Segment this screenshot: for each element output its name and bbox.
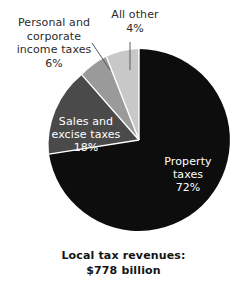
pie-chart-figure: Property taxes 72% Sales and excise taxe… [0, 0, 247, 283]
caption-line-1: Local tax revenues: [0, 249, 247, 264]
slice-label-personal-and-corporate-income-taxes: Personal and corporate income taxes 6% [2, 16, 106, 70]
allother-label-line1: All other [111, 8, 158, 21]
personal-label-line1: Personal and [18, 16, 90, 29]
allother-label-value: 4% [126, 22, 144, 35]
slice-label-all-other: All other 4% [98, 8, 172, 35]
caption-line-2: $778 billion [0, 264, 247, 279]
personal-label-line3: income taxes [17, 43, 92, 56]
chart-caption: Local tax revenues: $778 billion [0, 249, 247, 278]
personal-label-line2: corporate [27, 30, 81, 43]
personal-label-value: 6% [45, 57, 63, 70]
